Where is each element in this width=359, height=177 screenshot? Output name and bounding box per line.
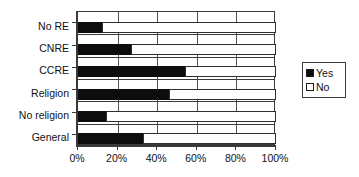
x-axis-tick-label: 0% — [57, 152, 97, 165]
bar-segment-yes — [78, 44, 131, 55]
y-axis-tick-label: Religion — [31, 88, 69, 99]
plot-area — [77, 11, 275, 145]
legend-label: No — [316, 82, 329, 93]
y-axis-line — [76, 11, 78, 147]
y-axis-tick-label: No RE — [38, 21, 69, 32]
x-axis-tick-labels: 0%20%40%60%80%100% — [0, 152, 359, 166]
bar-segment-yes — [78, 22, 102, 33]
y-axis-category-labels: No RECNRECCREReligionNo religionGeneral — [0, 11, 73, 145]
x-axis-line — [77, 145, 275, 147]
y-axis-tick-label: CNRE — [39, 43, 69, 54]
legend-entry: Yes — [306, 66, 345, 80]
x-axis-tick — [275, 145, 276, 150]
x-axis-tick — [196, 145, 197, 150]
x-axis-tick-label: 80% — [215, 152, 255, 165]
bar-row — [78, 133, 274, 144]
bar-segment-yes — [78, 89, 169, 100]
chart-legend: YesNo — [302, 62, 346, 98]
y-axis-tick-label: CCRE — [39, 65, 69, 76]
bar-segment-no — [169, 89, 276, 100]
x-axis-tick — [235, 145, 236, 150]
legend-label: Yes — [316, 68, 333, 79]
bar-segment-yes — [78, 111, 106, 122]
gridline-horizontal — [78, 34, 274, 35]
gridline-horizontal — [78, 79, 274, 80]
gridline-horizontal — [78, 57, 274, 58]
x-axis-tick — [77, 145, 78, 150]
bar-row — [78, 111, 274, 122]
legend-entry: No — [306, 80, 345, 94]
bar-segment-no — [131, 44, 276, 55]
legend-swatch-hollow-icon — [306, 83, 314, 91]
y-axis-tick-label: General — [32, 132, 69, 143]
y-axis-tick — [72, 22, 76, 23]
bar-segment-no — [102, 22, 276, 33]
bar-row — [78, 66, 274, 77]
bar-row — [78, 22, 274, 33]
x-axis-tick-label: 40% — [136, 152, 176, 165]
bar-segment-no — [185, 66, 276, 77]
gridline-horizontal — [78, 101, 274, 102]
y-axis-tick — [72, 112, 76, 113]
y-axis-tick — [72, 45, 76, 46]
y-axis-tick — [72, 67, 76, 68]
bar-segment-no — [106, 111, 276, 122]
x-axis-tick-label: 20% — [97, 152, 137, 165]
gridline-horizontal — [78, 124, 274, 125]
bar-segment-no — [143, 133, 276, 144]
y-axis-tick — [72, 134, 76, 135]
bar-segment-yes — [78, 66, 185, 77]
x-axis-tick-label: 100% — [255, 152, 295, 165]
y-axis-tick — [72, 89, 76, 90]
bar-row — [78, 44, 274, 55]
x-axis-tick — [117, 145, 118, 150]
x-axis-tick-label: 60% — [176, 152, 216, 165]
x-axis-tick — [156, 145, 157, 150]
stacked-bar-chart: No RECNRECCREReligionNo religionGeneral … — [0, 0, 359, 177]
y-axis-tick-label: No religion — [19, 110, 69, 121]
bar-segment-yes — [78, 133, 143, 144]
bar-row — [78, 89, 274, 100]
legend-swatch-filled-icon — [306, 69, 314, 77]
